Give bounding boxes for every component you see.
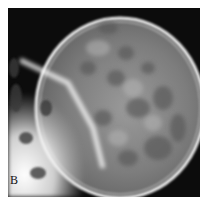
skull-xray bbox=[8, 8, 200, 197]
radiograph-image bbox=[8, 8, 200, 197]
panel-label: B bbox=[10, 174, 18, 186]
